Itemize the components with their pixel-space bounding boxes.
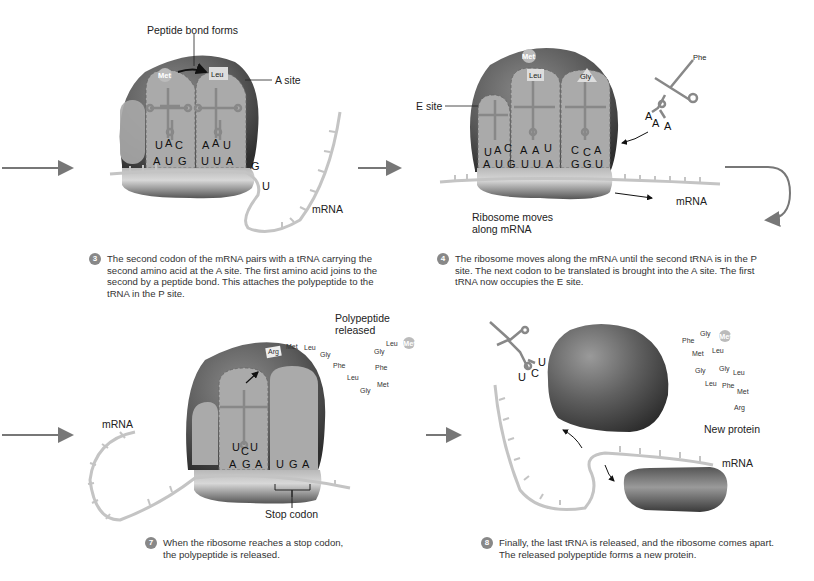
- residue: Met: [403, 339, 416, 348]
- mrna-label: mRNA: [676, 195, 707, 207]
- step-badge: 7: [145, 537, 157, 549]
- small-subunit-departure-arrow: [605, 465, 614, 481]
- anticodon-base: U: [232, 441, 240, 453]
- anticodon-base: A: [532, 144, 540, 156]
- amino-acid-phe-label: Phe: [693, 53, 706, 62]
- residue: Phe: [375, 364, 388, 371]
- residue: Leu: [386, 340, 398, 347]
- e-site-label: E site: [416, 100, 442, 112]
- caption-step-8: 8 Finally, the last tRNA is released, an…: [481, 537, 781, 560]
- anticodon-base: U: [518, 371, 526, 383]
- curved-continue-arrow: [725, 167, 790, 220]
- large-subunit-departure-arrow: [563, 430, 582, 448]
- residue: Met: [719, 332, 732, 341]
- residue: Gly: [360, 387, 371, 395]
- panel-step-4: Met Leu Gly E site Phe A A A U A C A A U…: [416, 48, 720, 235]
- anticodon-base: U: [538, 356, 546, 368]
- anticodon-base: C: [531, 367, 539, 379]
- new-protein: Phe Gly Met Met Leu Gly Gly Leu Leu Phe …: [682, 330, 749, 412]
- codon-base: U: [213, 155, 221, 167]
- ribosome-moves-label: Ribosome moves: [472, 211, 553, 223]
- anticodon-base: A: [664, 120, 672, 132]
- codon-base: A: [483, 158, 491, 170]
- codon-base: A: [302, 458, 310, 470]
- codon-base: G: [507, 158, 516, 170]
- codon-base: U: [262, 180, 270, 192]
- residue: Leu: [304, 344, 316, 351]
- codon-base: U: [201, 155, 209, 167]
- caption-step-3: 3 The second codon of the mRNA pairs wit…: [89, 253, 389, 299]
- a-site-label: A site: [275, 74, 301, 86]
- residue: Leu: [733, 369, 745, 376]
- caption-text: The ribosome moves along the mRNA until …: [455, 253, 762, 288]
- codon-base: G: [289, 458, 298, 470]
- residue: Phe: [333, 362, 346, 369]
- codon-base: U: [595, 158, 603, 170]
- codon-base: U: [495, 158, 503, 170]
- anticodon-base: A: [202, 139, 210, 151]
- codon-base: G: [178, 155, 187, 167]
- anticodon-base: U: [250, 441, 258, 453]
- caption-text: Finally, the last tRNA is released, and …: [499, 537, 781, 560]
- polypeptide-released-label-2: released: [335, 324, 375, 336]
- amino-acid-leu-label: Leu: [529, 71, 542, 80]
- caption-step-4: 4 The ribosome moves along the mRNA unti…: [437, 253, 762, 288]
- amino-acid-met-label: Met: [522, 52, 535, 61]
- p-site-region: [146, 70, 195, 168]
- caption-step-7: 7 When the ribosome reaches a stop codon…: [145, 537, 355, 560]
- anticodon-base: A: [494, 144, 502, 156]
- polypeptide-released-label: Polypeptide: [335, 312, 390, 324]
- anticodon-base: U: [223, 139, 231, 151]
- residue: Leu: [705, 380, 717, 387]
- anticodon-base: C: [583, 146, 591, 158]
- residue: Gly: [695, 367, 706, 375]
- codon-base: G: [242, 458, 251, 470]
- trna-entry-arrow: [622, 132, 648, 143]
- anticodon-base: A: [594, 144, 602, 156]
- codon-base: A: [226, 155, 234, 167]
- codon-base: A: [229, 458, 237, 470]
- step-badge: 3: [89, 253, 101, 265]
- anticodon-base: U: [155, 139, 163, 151]
- along-mrna-label: along mRNA: [472, 223, 532, 235]
- codon-base: U: [276, 458, 284, 470]
- panel-step-7: U C U A G A U G A mRNA Stop codon Polype…: [88, 312, 416, 520]
- residue: Met: [286, 343, 298, 350]
- caption-text: When the ribosome reaches a stop codon, …: [163, 537, 355, 560]
- ribosome-movement-arrow: [615, 193, 652, 198]
- ribosome-small-subunit-free: [624, 467, 728, 512]
- anticodon-base: C: [241, 445, 249, 457]
- residue: Phe: [682, 337, 695, 344]
- mrna-label: mRNA: [722, 457, 753, 469]
- residue: Met: [737, 388, 749, 395]
- codon-base: G: [251, 160, 260, 172]
- residue: Gly: [374, 348, 385, 356]
- incoming-trna: [652, 60, 697, 118]
- codon-base: U: [533, 158, 541, 170]
- residue: Gly: [700, 330, 711, 338]
- residue: Met: [377, 381, 389, 388]
- mrna-label: mRNA: [312, 203, 343, 215]
- codon-base: U: [521, 158, 529, 170]
- new-protein-label: New protein: [704, 423, 760, 435]
- panel-step-3: Met Leu Peptide bond forms A site U A C …: [110, 24, 343, 232]
- residue: Arg: [268, 348, 279, 356]
- step-badge: 4: [437, 253, 449, 265]
- anticodon-base: U: [484, 146, 492, 158]
- anticodon-base: A: [652, 117, 660, 129]
- residue: Gly: [719, 365, 730, 373]
- step-badge: 8: [481, 537, 493, 549]
- caption-text: The second codon of the mRNA pairs with …: [107, 253, 389, 299]
- residue: Met: [692, 350, 704, 357]
- residue: Leu: [712, 347, 724, 354]
- anticodon-base: A: [212, 137, 220, 149]
- stop-codon-label: Stop codon: [265, 508, 318, 520]
- anticodon-base: C: [571, 144, 579, 156]
- e-site-region: [120, 100, 145, 164]
- amino-acid-met-label: Met: [158, 71, 171, 80]
- anticodon-base: U: [544, 142, 552, 154]
- residue: Arg: [734, 404, 745, 412]
- ribosome-large-subunit-free: [548, 324, 669, 432]
- panel-step-8: U C U mRNA Phe Gly Met Met Leu Gly Gly L…: [490, 322, 760, 512]
- anticodon-base: C: [504, 142, 512, 154]
